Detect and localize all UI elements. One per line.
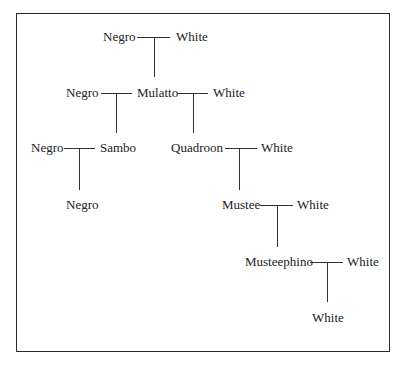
descent-line-musteephino (277, 205, 278, 247)
node-mustee: Mustee (222, 198, 260, 212)
node-negro-r1: Negro (103, 30, 136, 44)
node-negro-r2: Negro (66, 86, 99, 100)
node-white-r3: White (261, 141, 293, 155)
node-musteephino: Musteephino (245, 255, 313, 269)
node-quadroon: Quadroon (171, 141, 223, 155)
descent-line-white (327, 262, 328, 302)
descent-line-quadroon (193, 93, 194, 133)
descent-line-mulatto (154, 37, 155, 77)
descent-line-negro (79, 148, 80, 190)
node-white-r6: White (312, 311, 344, 325)
node-white-r1: White (176, 30, 208, 44)
node-white-r4: White (297, 198, 329, 212)
descent-line-mustee (239, 148, 240, 190)
node-negro-r4: Negro (66, 198, 99, 212)
node-white-r5: White (347, 255, 379, 269)
node-white-r2: White (213, 86, 245, 100)
union-line-r3-right (225, 148, 257, 149)
node-mulatto: Mulatto (137, 86, 178, 100)
node-sambo: Sambo (100, 141, 136, 155)
node-negro-r3: Negro (31, 141, 64, 155)
diagram-frame (16, 13, 390, 352)
descent-line-sambo (116, 93, 117, 133)
